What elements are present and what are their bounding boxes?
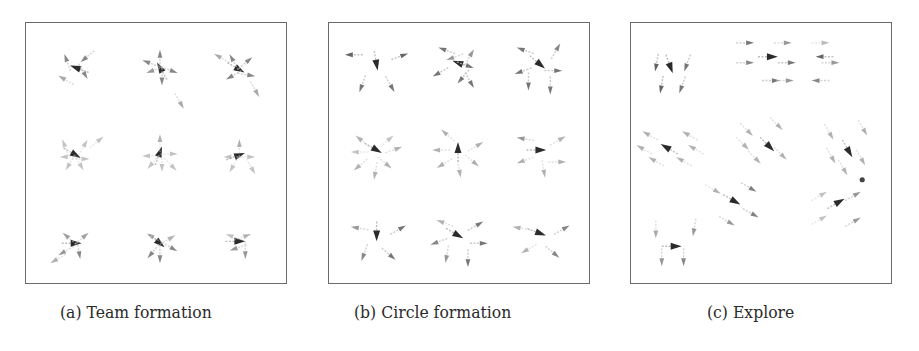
agent-arrow-icon	[464, 153, 481, 168]
agent-arrow-icon	[822, 123, 835, 141]
agent-arrow-icon	[653, 220, 658, 238]
agent-arrow-icon	[73, 231, 90, 246]
agent-arrow-icon	[345, 52, 363, 57]
agent-arrow-icon	[455, 160, 463, 178]
agent-arrow-icon	[544, 244, 561, 259]
agent-arrow-icon	[736, 60, 754, 65]
agent-arrow-icon	[371, 50, 381, 71]
agent-arrow-icon	[659, 248, 664, 266]
caption-explore: (c) Explore	[707, 302, 794, 322]
agent-arrow-icon	[826, 196, 847, 212]
agent-arrow-icon	[758, 53, 778, 60]
agent-arrow-icon	[72, 157, 90, 162]
agent-arrow-icon	[432, 66, 450, 79]
panel-circle-formation	[328, 22, 590, 284]
agent-arrow-icon	[467, 219, 485, 232]
agent-arrow-icon	[704, 183, 722, 196]
agent-arrow-icon	[549, 134, 567, 147]
agent-arrow-icon	[354, 134, 371, 149]
team-formation-plot	[26, 23, 286, 283]
agent-arrow-icon	[653, 54, 661, 72]
agent-arrow-icon	[658, 75, 666, 93]
explore-plot	[631, 23, 891, 283]
agent-arrow-icon	[237, 55, 254, 70]
agent-arrow-icon	[389, 223, 407, 236]
agent-arrow-icon	[682, 54, 693, 72]
agent-arrow-icon	[378, 134, 395, 149]
agent-arrow-icon	[516, 155, 534, 166]
agent-arrow-icon	[352, 157, 369, 172]
agent-arrow-icon	[854, 149, 867, 167]
agent-arrow-icon	[455, 142, 462, 162]
agent-arrow-icon	[549, 42, 562, 60]
agent-arrow-icon	[812, 78, 830, 83]
agent-arrow-icon	[158, 245, 163, 263]
agent-arrow-icon	[810, 213, 828, 226]
agent-arrow-icon	[380, 246, 397, 261]
agent-arrow-icon	[677, 76, 688, 94]
agent-arrow-icon	[467, 140, 485, 153]
agent-arrow-icon	[647, 155, 665, 168]
agent-arrow-icon	[768, 116, 784, 132]
agent-arrow-icon	[772, 145, 788, 161]
agent-arrow-icon	[520, 242, 538, 255]
agent-arrow-icon	[162, 156, 178, 172]
agent-arrow-icon	[774, 40, 792, 45]
agent-arrow-icon	[526, 225, 547, 238]
agent-arrow-icon	[385, 144, 403, 155]
agent-arrow-icon	[721, 192, 742, 208]
agent-arrow-icon	[662, 243, 682, 250]
agent-arrow-icon	[812, 40, 830, 45]
agent-arrow-icon	[351, 150, 369, 155]
agent-arrow-icon	[438, 45, 456, 56]
agent-arrow-icon	[836, 159, 849, 177]
agent-arrow-icon	[544, 68, 562, 73]
agent-arrow-icon	[436, 218, 454, 229]
agent-arrow-icon	[681, 248, 686, 266]
agent-arrow-icon	[142, 58, 160, 69]
agent-arrow-icon	[372, 162, 380, 180]
agent-arrow-icon	[822, 60, 840, 65]
agent-arrow-icon	[466, 249, 471, 267]
agent-arrow-icon	[681, 129, 699, 142]
agent-arrow-icon	[225, 238, 245, 245]
agent-arrow-icon	[77, 138, 90, 156]
agent-arrow-icon	[641, 129, 659, 142]
agent-arrow-icon	[363, 140, 384, 156]
agent-arrow-icon	[430, 236, 448, 247]
agent-arrow-icon	[675, 155, 693, 168]
agent-arrow-icon	[824, 147, 837, 165]
agent-arrow-icon	[357, 75, 368, 93]
agent-arrow-icon	[373, 221, 380, 241]
panel-team-formation	[25, 22, 287, 284]
agent-arrow-icon	[548, 77, 553, 95]
agent-arrow-icon	[57, 74, 75, 87]
agent-arrow-icon	[350, 224, 368, 232]
agent-arrow-icon	[844, 190, 862, 203]
agent-arrow-icon	[740, 181, 758, 194]
agent-arrow-icon	[659, 141, 680, 157]
agent-arrow-icon	[60, 139, 71, 157]
agent-arrow-icon	[735, 136, 751, 152]
agent-arrow-icon	[839, 138, 855, 159]
agent-arrow-icon	[816, 54, 834, 59]
agent-arrow-icon	[736, 40, 754, 45]
circle-formation-plot	[329, 23, 589, 283]
agent-arrow-icon	[687, 143, 705, 156]
caption-team-formation: (a) Team formation	[60, 302, 212, 322]
agent-arrow-icon	[516, 45, 534, 56]
agent-arrow-icon	[237, 71, 255, 79]
agent-arrow-icon	[79, 49, 96, 64]
agent-arrow-icon	[758, 135, 777, 154]
agent-arrow-icon	[548, 160, 566, 165]
agent-arrow-icon	[526, 73, 531, 91]
agent-arrow-icon	[443, 245, 451, 263]
agent-arrow-icon	[248, 80, 261, 98]
agent-arrow-icon	[553, 223, 571, 236]
agent-arrow-icon	[463, 71, 476, 89]
agent-arrow-icon	[718, 214, 736, 227]
agent-arrow-icon	[243, 241, 248, 259]
agent-arrow-icon	[62, 53, 73, 71]
agent-arrow-icon	[844, 215, 862, 228]
agent-arrow-icon	[244, 158, 257, 176]
